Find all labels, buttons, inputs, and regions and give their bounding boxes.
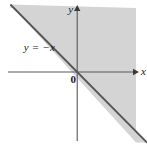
graph-figure: y x 0 y = −x (0, 0, 147, 150)
y-axis-label: y (68, 4, 73, 15)
x-axis-label: x (141, 66, 146, 77)
origin-label: 0 (71, 74, 77, 85)
line-equation-label: y = −x (24, 42, 55, 53)
